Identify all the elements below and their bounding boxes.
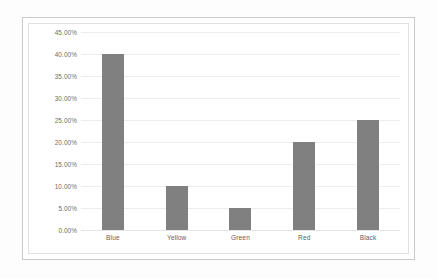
bar-slot [209,32,273,230]
axis-baseline [81,230,400,231]
y-axis-tick-label: 25.00% [55,117,77,124]
y-axis-tick-label: 5.00% [58,205,77,212]
y-axis-tick-label: 15.00% [55,160,77,167]
chart-frame: 0.00%5.00%10.00%15.00%20.00%25.00%30.00%… [22,17,415,260]
x-axis-category-label: Blue [81,234,145,250]
bar-black[interactable] [357,120,379,230]
y-axis-tick-label: 30.00% [55,94,77,101]
y-axis-tick-label: 0.00% [58,227,77,234]
y-axis-tick-label: 20.00% [55,139,77,146]
bar-slot [145,32,209,230]
bar-yellow[interactable] [166,186,188,230]
x-axis-category-label: Green [209,234,273,250]
bar-green[interactable] [229,208,251,230]
bar-series [81,32,400,230]
bar-slot [272,32,336,230]
bar-slot [81,32,145,230]
x-axis-category-label: Red [272,234,336,250]
x-axis-category-label: Black [336,234,400,250]
y-axis: 0.00%5.00%10.00%15.00%20.00%25.00%30.00%… [29,32,81,230]
bar-slot [336,32,400,230]
x-axis-category-label: Yellow [145,234,209,250]
y-axis-tick-label: 10.00% [55,183,77,190]
y-axis-tick-label: 35.00% [55,73,77,80]
chart-plot-border: 0.00%5.00%10.00%15.00%20.00%25.00%30.00%… [28,23,409,254]
y-axis-tick-label: 40.00% [55,51,77,58]
y-axis-tick-label: 45.00% [55,29,77,36]
bar-chart: 0.00%5.00%10.00%15.00%20.00%25.00%30.00%… [29,24,408,253]
bar-blue[interactable] [102,54,124,230]
bar-red[interactable] [293,142,315,230]
x-axis: BlueYellowGreenRedBlack [81,234,400,250]
